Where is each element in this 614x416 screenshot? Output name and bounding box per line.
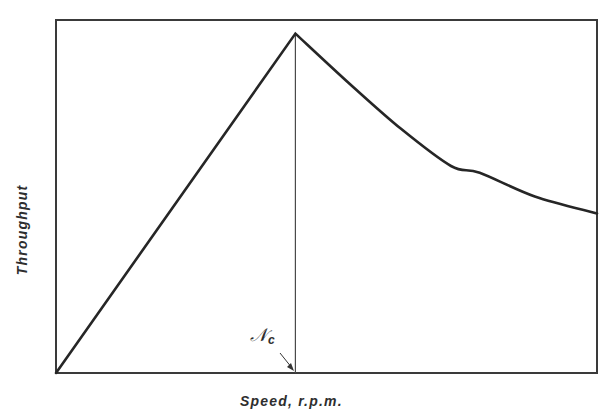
critical-speed-subscript: c bbox=[268, 333, 275, 347]
chart-canvas bbox=[0, 0, 614, 416]
critical-speed-arrow bbox=[280, 353, 294, 371]
critical-speed-symbol: 𝒩 bbox=[250, 324, 267, 345]
critical-speed-label: 𝒩c bbox=[250, 324, 275, 346]
throughput-curve bbox=[56, 34, 597, 373]
x-axis-label: Speed, r.p.m. bbox=[240, 393, 343, 409]
y-axis-label: Throughput bbox=[14, 185, 30, 276]
plot-frame bbox=[56, 20, 597, 373]
